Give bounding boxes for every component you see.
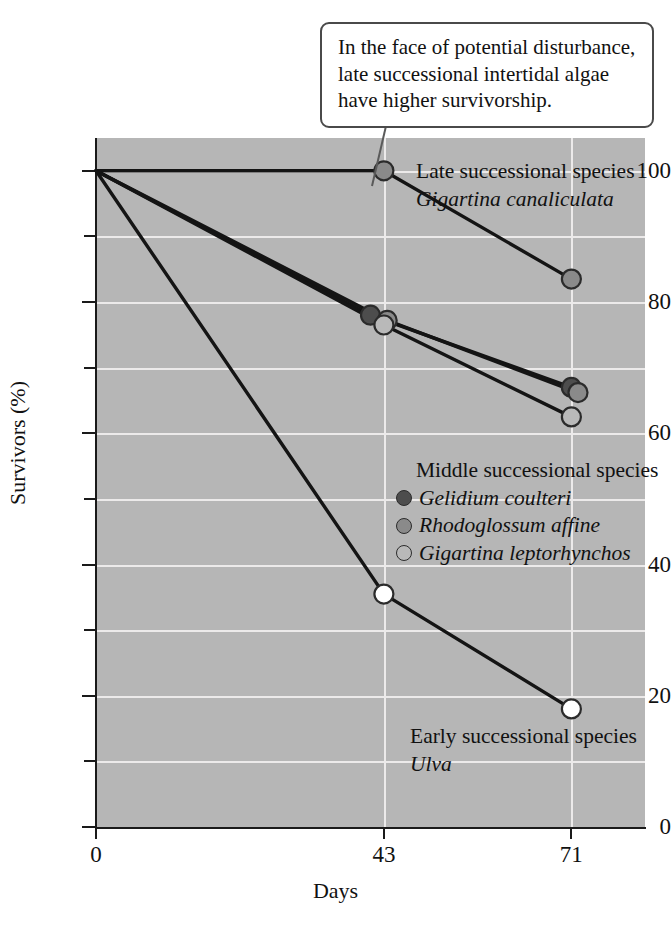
y-tick-major [82,826,96,828]
early-successional-species: Ulva [410,751,637,779]
legend-marker-icon [396,518,412,534]
gridline-vertical [384,138,386,827]
y-tick-minor [84,235,96,237]
legend-item: Rhodoglossum affine [396,512,658,540]
gridline-horizontal [96,433,645,435]
annotation-late-successional: Late successional species Gigartina cana… [416,158,635,213]
callout-box: In the face of potential disturbance, la… [320,22,654,128]
y-tick-major [82,695,96,697]
y-tick-minor [84,367,96,369]
y-tick-minor [84,498,96,500]
x-tick [95,829,97,839]
x-tick [570,829,572,839]
y-tick-minor [84,629,96,631]
gridline-horizontal [96,696,645,698]
y-tick-major [82,170,96,172]
middle-successional-legend: Gelidium coulteriRhodoglossum affineGiga… [396,485,658,568]
y-tick-label: 0 [613,815,671,838]
legend-species-label: Rhodoglossum affine [419,512,600,540]
gridline-horizontal [96,236,645,238]
legend-item: Gigartina leptorhynchos [396,540,658,568]
annotation-early-successional: Early successional species Ulva [410,723,637,778]
x-tick-label: 43 [354,843,414,866]
x-tick-label: 71 [541,843,601,866]
chart-figure: 020406080100 04371 Days Survivors (%) In… [0,0,671,928]
legend-marker-icon [396,490,412,506]
x-axis-title: Days [0,878,671,904]
legend-marker-icon [396,545,412,561]
y-tick-label: 20 [613,684,671,707]
y-axis-line [95,138,97,829]
legend-species-label: Gelidium coulteri [419,485,571,513]
legend-item: Gelidium coulteri [396,485,658,513]
late-successional-title: Late successional species [416,158,635,186]
y-axis-title: Survivors (%) [5,353,31,533]
callout-text: In the face of potential disturbance, la… [338,35,635,112]
annotation-middle-successional: Middle successional species Gelidium cou… [396,457,658,567]
gridline-horizontal [96,368,645,370]
legend-species-label: Gigartina leptorhynchos [419,540,631,568]
y-tick-label: 60 [613,421,671,444]
y-tick-label: 80 [613,290,671,313]
y-tick-major [82,564,96,566]
gridline-horizontal [96,630,645,632]
middle-successional-title: Middle successional species [416,457,658,485]
late-successional-species: Gigartina canaliculata [416,186,635,214]
x-axis-line [95,827,646,829]
y-tick-major [82,432,96,434]
early-successional-title: Early successional species [410,723,637,751]
gridline-horizontal [96,302,645,304]
x-tick [383,829,385,839]
y-tick-minor [84,760,96,762]
y-tick-major [82,301,96,303]
x-tick-label: 0 [66,843,126,866]
